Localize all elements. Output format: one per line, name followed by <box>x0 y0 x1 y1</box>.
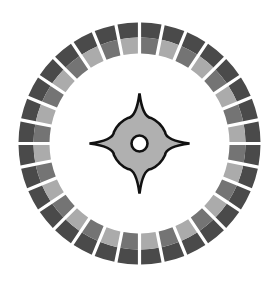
ring-segment-inner <box>34 145 51 163</box>
ring-segment-inner <box>120 38 138 55</box>
ring-segment-outer <box>141 248 161 265</box>
ring-segment-inner <box>34 124 51 142</box>
ring-segment-outer <box>117 248 137 265</box>
ring-segment-outer <box>19 121 36 141</box>
ring-segment-inner <box>120 232 138 249</box>
ring-segment-outer <box>117 23 137 40</box>
ring-segment-outer <box>244 121 261 141</box>
ring-segment-inner <box>141 38 159 55</box>
ring-segment-outer <box>19 145 36 165</box>
compass-graphic <box>0 0 276 285</box>
ring-segment-inner <box>228 145 245 163</box>
center-hole <box>132 136 148 152</box>
ring-segment-inner <box>228 124 245 142</box>
ring-segment-inner <box>141 232 159 249</box>
compass-star-icon <box>90 94 190 194</box>
ring-segment-outer <box>244 145 261 165</box>
ring-segment-outer <box>141 23 161 40</box>
